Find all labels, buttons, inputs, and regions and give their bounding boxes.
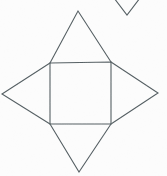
top-triangle-flap (50, 11, 111, 63)
net-diagram (0, 0, 167, 176)
left-triangle-flap (2, 63, 50, 124)
right-triangle-flap (111, 62, 158, 124)
partial-triangle-top-right (114, 0, 140, 15)
central-square (50, 62, 111, 124)
figure-canvas (0, 0, 167, 176)
bottom-triangle-flap (50, 124, 111, 172)
